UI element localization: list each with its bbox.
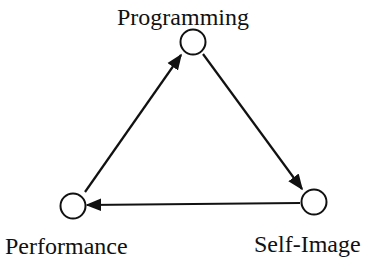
label-performance: Performance [5, 234, 128, 258]
label-programming: Programming [117, 5, 249, 29]
edge-performance-to-programming [85, 55, 181, 192]
diagram-canvas [0, 0, 375, 263]
node-performance [61, 194, 86, 219]
edge-programming-to-self-image [203, 54, 302, 189]
node-programming [181, 30, 206, 55]
label-self-image: Self-Image [254, 232, 361, 256]
edge-self-image-to-performance [87, 203, 300, 205]
node-self-image [302, 190, 327, 215]
